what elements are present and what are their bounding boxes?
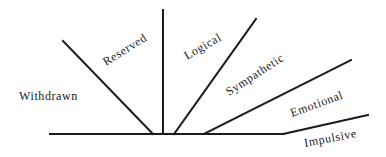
label-impulsive: Impulsive xyxy=(303,126,358,150)
label-logical: Logical xyxy=(182,30,224,63)
label-withdrawn: Withdrawn xyxy=(19,89,78,103)
label-reserved: Reserved xyxy=(100,30,149,68)
label-emotional: Emotional xyxy=(288,88,345,120)
temperament-fan-diagram: Withdrawn Reserved Logical Sympathetic E… xyxy=(0,0,386,157)
label-sympathetic: Sympathetic xyxy=(223,51,286,99)
